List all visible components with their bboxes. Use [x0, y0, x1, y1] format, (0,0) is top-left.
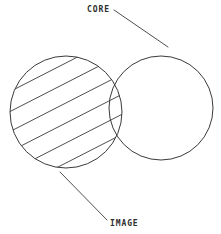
hatch-line: [0, 120, 150, 212]
image-circle: [10, 56, 122, 168]
venn-diagram-svg: CORE IMAGE: [0, 0, 221, 234]
hatch-line: [0, 100, 150, 192]
core-leader-line: [114, 10, 168, 47]
image-circle-hatching: [0, 0, 150, 234]
image-label: IMAGE: [110, 219, 139, 228]
core-circle: [109, 56, 213, 160]
image-leader-line: [60, 172, 107, 220]
core-label: CORE: [87, 5, 110, 14]
diagram-canvas: CORE IMAGE: [0, 0, 221, 234]
hatch-line: [0, 0, 150, 72]
